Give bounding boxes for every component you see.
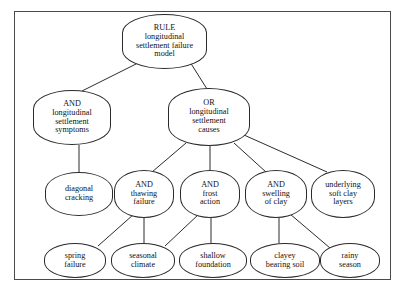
node-seasonal-climate[interactable]: seasonalclimate: [111, 243, 175, 278]
node-rainy-season[interactable]: rainyseason: [320, 243, 380, 278]
node-label-line: causes: [198, 126, 219, 135]
node-spring-failure[interactable]: springfailure: [44, 243, 106, 278]
node-thawing-failure[interactable]: ANDthawingfailure: [114, 170, 174, 218]
node-label-line: of clay: [265, 198, 288, 207]
node-label-line: failure: [133, 198, 154, 207]
node-label-line: foundation: [195, 261, 230, 270]
node-causes[interactable]: ORlongitudinalsettlementcauses: [168, 88, 250, 146]
node-swelling-of-clay[interactable]: ANDswellingof clay: [245, 170, 307, 218]
node-root[interactable]: RULElongitudinalsettlement failuremodel: [122, 14, 207, 69]
node-label-line: climate: [131, 261, 155, 270]
node-label-line: symptoms: [55, 126, 89, 135]
node-diagonal-cracking[interactable]: diagonalcracking: [45, 172, 113, 216]
node-label-line: bearing soil: [266, 261, 304, 270]
diagram-canvas: RULElongitudinalsettlement failuremodelA…: [0, 0, 407, 297]
node-frost-action[interactable]: ANDfrostaction: [180, 170, 240, 218]
node-shallow-foundation[interactable]: shallowfoundation: [179, 243, 247, 278]
node-label-line: season: [339, 261, 361, 270]
node-underlying-soft-clay[interactable]: underlyingsoft claylayers: [311, 170, 375, 218]
node-label-line: failure: [64, 261, 85, 270]
node-label-line: layers: [333, 198, 353, 207]
node-symptoms[interactable]: ANDlongitudinalsettlementsymptoms: [33, 90, 111, 145]
node-label-line: model: [154, 50, 174, 59]
node-label-line: action: [200, 198, 220, 207]
node-clayey-bearing-soil[interactable]: clayeybearing soil: [250, 243, 320, 278]
node-label-line: cracking: [65, 194, 93, 203]
